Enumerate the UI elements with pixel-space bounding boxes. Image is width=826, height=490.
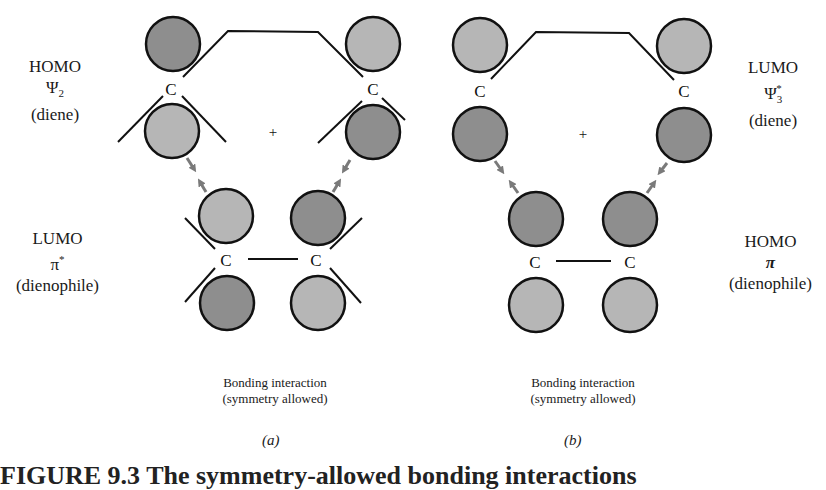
orbital-lobe-dark [453, 107, 507, 161]
panel-b-caption: Bonding interaction (symmetry allowed) [508, 375, 658, 407]
orbital-lobes [145, 17, 711, 332]
orbital-lobe-dark [200, 276, 254, 330]
figure-caption: FIGURE 9.3 The symmetry-allowed bonding … [0, 463, 637, 489]
diene-backbone-line [491, 32, 674, 80]
orbital-lobe-light [199, 189, 253, 243]
wavefunction-symbol: π* [5, 249, 110, 275]
panel-b-letter: (b) [564, 432, 582, 449]
arrow-icon [187, 158, 194, 169]
carbon-label: C [220, 251, 231, 270]
molecule-name: (diene) [20, 104, 90, 125]
orbital-lobe-light [603, 278, 657, 332]
panel-a-arrows [187, 158, 350, 192]
diene-backbone-line [183, 31, 363, 77]
orbital-lobe-light [145, 104, 199, 158]
carbon-label: C [367, 80, 378, 99]
panel-b-dienophile-label: HOMO π (dienophile) [718, 231, 823, 294]
orbital-lobe-light [509, 278, 563, 332]
wavefunction-symbol: Ψ2 [20, 77, 90, 104]
caption-line: Bonding interaction [200, 375, 350, 391]
molecule-name: (dienophile) [5, 275, 110, 296]
molecule-name: (diene) [738, 110, 808, 131]
arrow-icon [495, 161, 502, 171]
arrow-icon [200, 182, 206, 192]
orbital-name: HOMO [20, 56, 90, 77]
molecule-name: (dienophile) [718, 273, 823, 294]
carbon-label: C [165, 80, 176, 99]
arrow-icon [647, 183, 654, 193]
orbital-name: HOMO [718, 231, 823, 252]
panel-a-diene-label: HOMO Ψ2 (diene) [20, 56, 90, 125]
orbital-lobe-light [453, 18, 507, 72]
wavefunction-symbol: π [718, 252, 823, 273]
panel-b-arrows [495, 161, 667, 193]
arrow-icon [660, 163, 667, 172]
orbital-lobe-dark [509, 192, 563, 246]
wavefunction-symbol: Ψ3* [738, 78, 808, 110]
orbital-name: LUMO [738, 57, 808, 78]
plus-sign: + [579, 126, 587, 142]
caption-line: (symmetry allowed) [200, 391, 350, 407]
orbital-lobe-dark [346, 105, 400, 159]
panel-a-dienophile-label: LUMO π* (dienophile) [5, 228, 110, 296]
orbital-lobe-dark [603, 192, 657, 246]
orbital-name: LUMO [5, 228, 110, 249]
panel-a-bonds [118, 31, 405, 303]
carbon-label: C [624, 253, 635, 272]
carbon-label: C [474, 82, 485, 101]
arrow-icon [333, 182, 339, 192]
orbital-lobe-light [291, 276, 345, 330]
arrow-icon [511, 183, 518, 193]
orbital-lobe-dark [291, 191, 345, 245]
panel-a-letter: (a) [262, 432, 280, 449]
orbital-lobe-dark [657, 108, 711, 162]
panel-a-caption: Bonding interaction (symmetry allowed) [200, 375, 350, 407]
carbon-label: C [529, 253, 540, 272]
carbon-label: C [310, 251, 321, 270]
arrow-icon [344, 160, 350, 170]
panel-b-diene-label: LUMO Ψ3* (diene) [738, 57, 808, 131]
carbon-label: C [678, 82, 689, 101]
orbital-lobe-light [346, 17, 400, 71]
orbital-lobe-dark [146, 17, 200, 71]
orbital-lobe-light [657, 19, 711, 73]
caption-line: (symmetry allowed) [508, 391, 658, 407]
caption-line: Bonding interaction [508, 375, 658, 391]
plus-sign: + [269, 124, 277, 140]
